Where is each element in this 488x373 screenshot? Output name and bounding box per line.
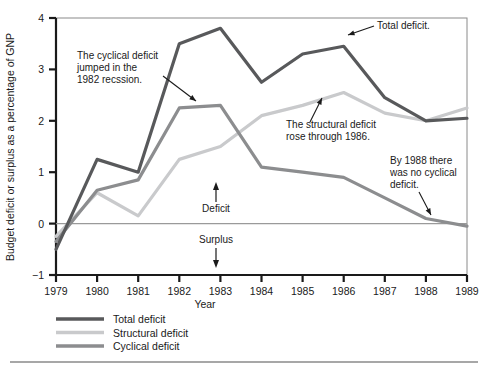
x-tick-label: 1987	[373, 285, 397, 297]
annotation-arrow-head-icon	[348, 30, 355, 35]
y-tick-label: 4	[38, 12, 44, 24]
legend-label-cyclical-deficit: Cyclical deficit	[113, 340, 180, 352]
legend: Total deficitStructural deficitCyclical …	[56, 313, 188, 352]
annotation-text-line: was no cyclical	[389, 167, 457, 178]
x-tick-label: 1985	[291, 285, 315, 297]
x-tick-label: 1981	[127, 285, 151, 297]
annotation-text-line: deficit.	[390, 179, 419, 190]
annotation-text-line: The structural deficit	[286, 119, 376, 130]
figure-container: −101234 19791980198119821983198419851986…	[0, 0, 488, 373]
annotation-text-line: By 1988 there	[390, 155, 453, 166]
x-tick-label: 1982	[168, 285, 192, 297]
x-axis-title: Year	[194, 298, 216, 310]
annotation-text-line: The cyclical deficit	[77, 50, 158, 61]
y-axis-ticks: −101234	[32, 12, 56, 281]
annotation-text-line: rose through 1986.	[286, 131, 370, 142]
up-arrow-head-icon	[213, 182, 219, 190]
legend-label-total-deficit: Total deficit	[113, 313, 166, 325]
annotation-arrow-head-icon	[426, 208, 431, 215]
zone-labels-group: DeficitSurplus	[199, 182, 233, 268]
x-tick-label: 1979	[44, 285, 68, 297]
y-tick-label: 3	[38, 63, 44, 75]
x-tick-label: 1980	[85, 285, 109, 297]
annotation-arrow-head-icon	[189, 95, 196, 101]
annotation-text-line: jumped in the	[76, 62, 137, 73]
x-tick-label: 1989	[455, 285, 479, 297]
zone-label-surplus: Surplus	[199, 234, 233, 245]
y-tick-label: −1	[32, 269, 44, 281]
zone-label-deficit: Deficit	[202, 203, 230, 214]
x-tick-label: 1988	[414, 285, 438, 297]
x-axis-ticks: 1979198019811982198319841985198619871988…	[44, 275, 479, 297]
annotation-text-line: 1982 recssion.	[77, 74, 142, 85]
down-arrow-head-icon	[213, 260, 219, 268]
y-tick-label: 1	[38, 166, 44, 178]
annotations-group: The cyclical deficitjumped in the1982 re…	[76, 20, 457, 215]
annotation-text-line: Total deficit.	[377, 20, 430, 31]
legend-label-structural-deficit: Structural deficit	[113, 327, 188, 339]
x-tick-label: 1983	[209, 285, 233, 297]
y-axis-title: Budget deficit or surplus as a percentag…	[4, 33, 16, 261]
x-tick-label: 1986	[332, 285, 356, 297]
annotation-cyclical-recession-note: The cyclical deficitjumped in the1982 re…	[76, 50, 196, 101]
annotation-total-deficit-note: Total deficit.	[348, 20, 430, 35]
y-tick-label: 0	[38, 218, 44, 230]
deficit-line-chart: −101234 19791980198119821983198419851986…	[0, 0, 488, 373]
x-tick-label: 1984	[250, 285, 274, 297]
y-tick-label: 2	[38, 115, 44, 127]
